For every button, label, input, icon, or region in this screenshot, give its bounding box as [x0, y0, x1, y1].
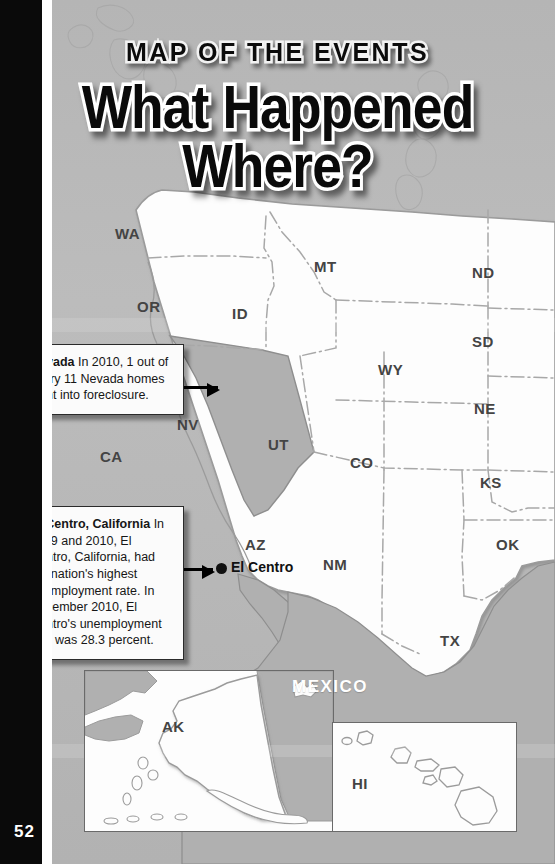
headline-line-2: Where?	[39, 137, 516, 194]
state-label-ne: NE	[474, 400, 496, 417]
state-label-ak: AK	[162, 718, 185, 735]
state-label-nd: ND	[472, 264, 495, 281]
state-label-nv: NV	[177, 416, 199, 433]
state-label-ok: OK	[496, 536, 520, 553]
state-label-tx: TX	[440, 632, 460, 649]
state-label-ks: KS	[480, 474, 502, 491]
state-label-nm: NM	[323, 556, 347, 573]
page-gutter	[42, 0, 52, 864]
state-label-wa: WA	[115, 225, 140, 242]
country-label-mexico: MEXICO	[292, 677, 368, 697]
state-label-or: OR	[137, 298, 161, 315]
magazine-page: WAORIDMTNDSDWYNENVUTCACOKSAZNMOKTXAKHI M…	[0, 0, 555, 864]
state-label-id: ID	[232, 305, 248, 322]
state-label-hi: HI	[352, 775, 368, 792]
binding-strip	[0, 0, 42, 864]
state-label-ca: CA	[100, 448, 123, 465]
state-label-sd: SD	[472, 333, 494, 350]
state-label-co: CO	[350, 454, 374, 471]
state-label-ut: UT	[268, 436, 289, 453]
el-centro-label: El Centro	[231, 559, 293, 575]
el-centro-dot	[216, 563, 227, 574]
headline-line-1: What Happened	[39, 78, 516, 135]
kicker-banner: MAP OF THE EVENTS	[0, 38, 555, 67]
state-label-wy: WY	[378, 361, 403, 378]
state-label-mt: MT	[314, 258, 337, 275]
page-title: What Happened Where?	[0, 78, 555, 194]
state-label-az: AZ	[245, 536, 266, 553]
page-number: 52	[14, 822, 44, 842]
